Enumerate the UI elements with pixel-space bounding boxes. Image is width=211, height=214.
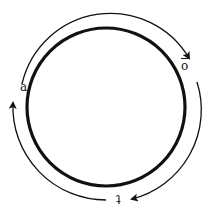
node-label-t: t [116, 193, 121, 205]
node-label-b: o [181, 60, 188, 72]
arc-b-to-t [132, 82, 201, 199]
node-label-a: a [20, 81, 27, 93]
cycle-diagram: a o t [0, 0, 211, 214]
arc-a-to-b [22, 13, 189, 84]
main-circle [27, 28, 185, 186]
